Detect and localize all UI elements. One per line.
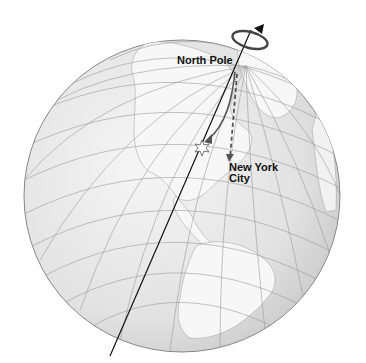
coriolis-diagram: North Pole New York City xyxy=(0,0,366,363)
label-new-york-line2: City xyxy=(229,173,250,184)
label-north-pole: North Pole xyxy=(177,55,233,66)
rotation-arrow-icon xyxy=(231,24,270,52)
globe xyxy=(18,40,348,352)
